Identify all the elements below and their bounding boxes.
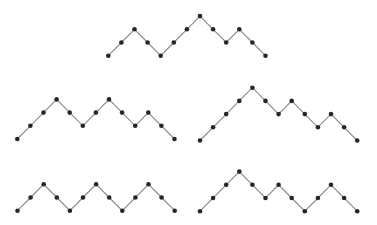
path-vertex — [237, 27, 242, 32]
path-vertex — [289, 99, 294, 104]
path-vertex — [316, 125, 321, 130]
path-vertex — [237, 99, 242, 104]
path-vertex — [172, 137, 177, 142]
path-vertex — [198, 14, 203, 19]
path-vertex — [120, 208, 125, 213]
path-vertex — [303, 112, 308, 117]
path-vertex — [81, 124, 86, 129]
diagram-svg — [0, 0, 377, 225]
path-vertex — [28, 195, 33, 200]
path-vertex — [119, 40, 124, 45]
path-vertex — [94, 110, 99, 115]
path-vertex — [224, 112, 229, 117]
path-vertex — [106, 53, 111, 58]
path-vertex — [289, 196, 294, 201]
path-vertex — [158, 53, 163, 58]
path-vertex — [145, 40, 150, 45]
path-vertex — [55, 195, 60, 200]
dyck-path-middle-right — [198, 85, 360, 142]
path-vertex — [250, 40, 255, 45]
path-vertex — [172, 40, 177, 45]
path-vertex — [81, 195, 86, 200]
dyck-path-bottom-right — [198, 169, 360, 213]
path-vertex — [329, 112, 334, 117]
path-vertex — [224, 183, 229, 188]
path-vertex — [159, 195, 164, 200]
path-vertex — [172, 208, 177, 213]
path-vertex — [159, 124, 164, 129]
path-vertex — [41, 110, 46, 115]
path-vertex — [68, 208, 73, 213]
path-edges — [17, 99, 174, 139]
path-vertex — [224, 40, 229, 45]
path-vertex — [133, 124, 138, 129]
path-vertex — [198, 138, 203, 143]
path-vertex — [67, 110, 72, 115]
path-vertex — [120, 110, 125, 115]
path-vertex — [94, 182, 99, 187]
dyck-path-bottom-left — [15, 182, 177, 213]
path-vertex — [250, 85, 255, 90]
path-vertex — [133, 195, 138, 200]
path-vertex — [342, 196, 347, 201]
path-vertex — [263, 99, 268, 104]
path-vertex — [250, 183, 255, 188]
path-vertex — [211, 27, 216, 32]
path-edges — [200, 172, 357, 212]
path-vertex — [263, 53, 268, 58]
path-vertex — [41, 182, 46, 187]
path-vertex — [355, 138, 360, 143]
path-vertex — [211, 125, 216, 130]
path-vertex — [342, 125, 347, 130]
path-vertex — [107, 97, 112, 102]
path-vertex — [211, 196, 216, 201]
path-edges — [108, 16, 265, 56]
path-vertex — [146, 182, 151, 187]
dyck-path-diagram — [0, 0, 377, 225]
path-vertex — [316, 196, 321, 201]
path-vertex — [263, 196, 268, 201]
path-vertex — [15, 208, 20, 213]
path-vertex — [198, 209, 203, 214]
path-vertex — [107, 195, 112, 200]
path-vertex — [303, 209, 308, 214]
path-vertex — [237, 169, 242, 174]
path-vertex — [15, 137, 20, 142]
path-edges — [18, 184, 175, 210]
path-vertex — [54, 97, 59, 102]
path-vertex — [276, 112, 281, 117]
path-vertex — [355, 209, 360, 214]
path-vertex — [132, 27, 137, 32]
path-vertex — [146, 110, 151, 115]
dyck-path-middle-left — [15, 97, 177, 141]
path-vertex — [329, 183, 334, 188]
path-vertex — [276, 183, 281, 188]
path-vertex — [28, 124, 33, 129]
path-vertex — [185, 27, 190, 32]
dyck-path-top — [106, 14, 268, 58]
